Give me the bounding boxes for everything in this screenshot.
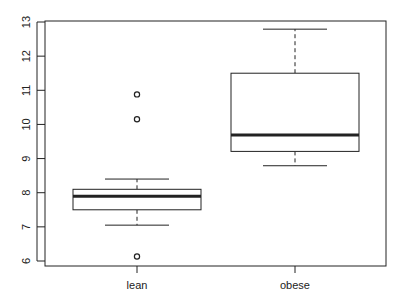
box-lean (73, 92, 201, 259)
x-axis: leanobese (127, 266, 310, 291)
y-tick-label: 10 (20, 118, 32, 130)
iqr-box (231, 73, 359, 151)
y-tick-label: 8 (20, 190, 32, 196)
x-tick-label-lean: lean (127, 279, 148, 291)
outlier-point (134, 117, 139, 122)
y-tick-label: 6 (20, 258, 32, 264)
boxes (73, 29, 359, 259)
y-axis: 678910111213 (20, 16, 45, 264)
y-tick-label: 9 (20, 156, 32, 162)
box-obese (231, 29, 359, 166)
iqr-box (73, 189, 201, 209)
y-tick-label: 13 (20, 16, 32, 28)
y-tick-label: 7 (20, 224, 32, 230)
y-tick-label: 12 (20, 50, 32, 62)
outlier-point (134, 254, 139, 259)
x-tick-label-obese: obese (280, 279, 310, 291)
y-tick-label: 11 (20, 85, 32, 96)
boxplot-chart: 678910111213 leanobese (0, 0, 406, 307)
outlier-point (134, 92, 139, 97)
